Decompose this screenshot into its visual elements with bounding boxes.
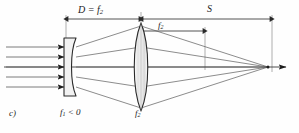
negative-lens-label: f1 < 0 — [60, 108, 81, 118]
incoming-rays — [6, 47, 64, 87]
dimension-label-S: S — [207, 4, 212, 14]
optical-diagram-figure: D = f2 S f2 f1 < 0 f2 c) — [0, 0, 299, 133]
positive-lens-label: f2 — [135, 109, 140, 119]
dimension-label-D: D = f2 — [78, 5, 103, 16]
diagram-canvas — [0, 0, 299, 133]
figure-part-label: c) — [9, 109, 16, 118]
focal-point — [267, 66, 270, 69]
positive-lens-element — [134, 23, 148, 111]
dimension-label-f2: f2 — [158, 21, 163, 31]
converging-rays — [141, 26, 268, 108]
diverging-rays — [76, 26, 141, 108]
